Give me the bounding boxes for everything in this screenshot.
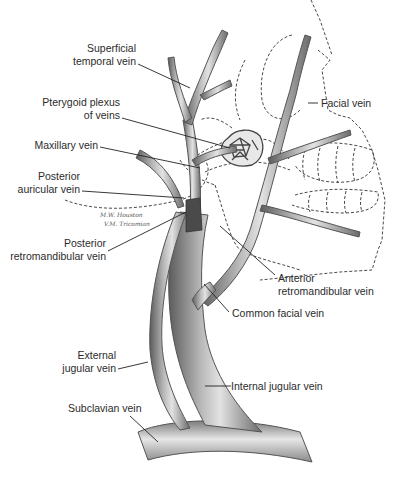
label-maxillary-vein: Maxillary vein (20, 139, 98, 152)
label-superficial-temporal-vein: Superficial temporal vein (48, 42, 136, 67)
svg-text:M.W. Houston: M.W. Houston (99, 211, 143, 218)
artist-signature: M.W. Houston V.M. Tricomian (99, 211, 150, 227)
label-posterior-auricular-vein: Posterior auricular vein (4, 170, 80, 195)
label-posterior-retromandibular-vein: Posterior retromandibular vein (2, 237, 106, 262)
label-internal-jugular-vein: Internal jugular vein (231, 380, 323, 393)
veins (136, 30, 360, 462)
label-external-jugular-vein: External jugular vein (50, 349, 116, 374)
label-pterygoid-plexus: Pterygoid plexus of veins (24, 96, 120, 121)
facial-vein-shape (200, 35, 311, 306)
label-facial-vein: Facial vein (321, 97, 371, 110)
svg-text:V.M. Tricomian: V.M. Tricomian (104, 220, 150, 227)
label-subclavian-vein: Subclavian vein (68, 402, 142, 415)
label-anterior-retromandibular-vein: Anterior retromandibular vein (278, 272, 374, 297)
label-common-facial-vein: Common facial vein (232, 307, 324, 320)
